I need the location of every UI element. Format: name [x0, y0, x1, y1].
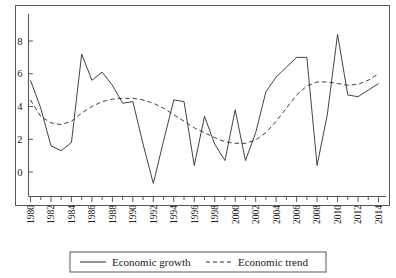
x-axis-tick-label: 1992 — [149, 205, 159, 224]
y-axis: 02468 — [17, 14, 33, 197]
chart-legend: Economic growthEconomic trend — [70, 252, 326, 272]
series-line-economic-trend — [31, 74, 379, 144]
y-axis-tick-label: 0 — [17, 167, 22, 178]
legend-label-economic-growth: Economic growth — [112, 256, 191, 268]
x-axis-tick-label: 2012 — [353, 205, 363, 224]
x-axis-tick-label: 1994 — [169, 205, 179, 224]
y-axis-tick-label: 8 — [17, 36, 22, 47]
y-axis-tick-label: 2 — [17, 134, 22, 145]
plot-frame — [16, 6, 390, 206]
x-axis: 1980198219841986198819901992199419961998… — [26, 197, 386, 225]
x-axis-tick-label: 1990 — [128, 205, 138, 224]
x-axis-tick-label: 1980 — [26, 205, 36, 224]
series-line-economic-growth — [31, 34, 379, 183]
x-axis-tick-label: 2004 — [272, 205, 282, 224]
economic-growth-chart-figure: 02468 1980198219841986198819901992199419… — [0, 0, 396, 278]
x-axis-tick-label: 2014 — [374, 205, 384, 224]
legend-label-economic-trend: Economic trend — [238, 256, 308, 268]
x-axis-tick-label: 1996 — [190, 205, 200, 224]
x-axis-tick-label: 2002 — [251, 205, 261, 224]
x-axis-tick-label: 1982 — [46, 205, 56, 224]
x-axis-tick-label: 1986 — [87, 205, 97, 224]
x-axis-tick-label: 1998 — [210, 205, 220, 224]
x-axis-tick-label: 2000 — [231, 205, 241, 224]
x-axis-tick-label: 1988 — [108, 205, 118, 224]
data-series-group — [31, 34, 379, 183]
x-axis-tick-label: 2008 — [312, 205, 322, 224]
y-axis-tick-label: 4 — [17, 101, 23, 112]
x-axis-tick-label: 2010 — [333, 205, 343, 224]
x-axis-tick-label: 1984 — [67, 205, 77, 224]
y-axis-tick-label: 6 — [17, 68, 22, 79]
chart-canvas: 02468 1980198219841986198819901992199419… — [0, 0, 396, 278]
x-axis-tick-label: 2006 — [292, 205, 302, 224]
